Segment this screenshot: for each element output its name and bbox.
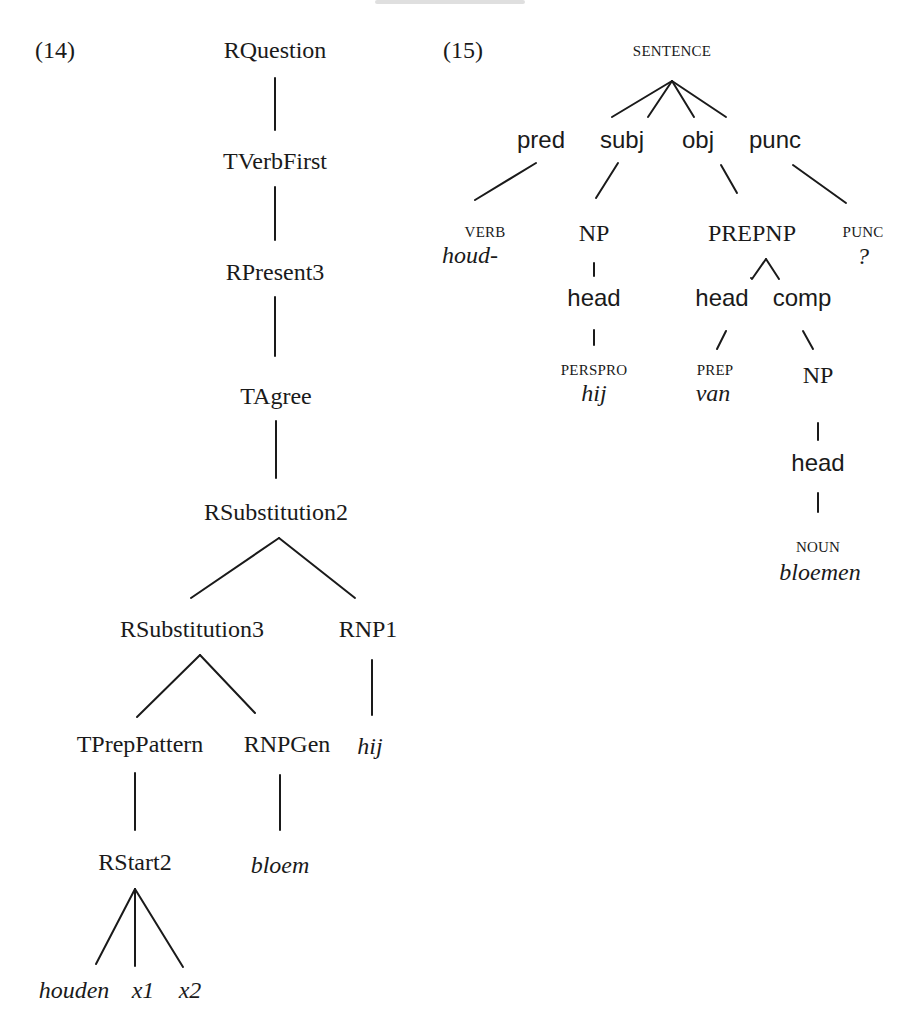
leaf-question-mark: ? — [857, 244, 869, 268]
node-pred: pred — [517, 128, 565, 152]
node-perspro-category: PERSPRO — [561, 363, 627, 378]
tree-figure: (14) RQuestion TVerbFirst RPresent3 TAgr… — [0, 0, 915, 1017]
node-np-subj: NP — [579, 221, 610, 245]
node-rsubstitution2: RSubstitution2 — [204, 500, 348, 524]
example-number-15: (15) — [443, 38, 483, 62]
node-verb-category: VERB — [465, 225, 506, 240]
leaf-houd: houd- — [442, 243, 498, 267]
node-tagree: TAgree — [240, 384, 311, 408]
node-head-subj: head — [567, 286, 620, 310]
node-head-prepnp: head — [695, 286, 748, 310]
leaf-houden: houden — [39, 978, 110, 1002]
node-rpresent3: RPresent3 — [226, 260, 325, 284]
node-subj: subj — [600, 128, 644, 152]
leaf-hij-15: hij — [581, 381, 606, 405]
node-prepnp: PREPNP — [708, 221, 796, 245]
leaf-bloemen: bloemen — [779, 560, 860, 584]
node-punc: punc — [749, 128, 801, 152]
node-noun-category: NOUN — [796, 540, 840, 555]
node-prep-category: PREP — [697, 363, 734, 378]
node-tpreppattern: TPrepPattern — [77, 732, 204, 756]
node-obj: obj — [682, 128, 714, 152]
leaf-x1: x1 — [132, 978, 155, 1002]
node-sentence: SENTENCE — [633, 44, 711, 59]
node-rstart2: RStart2 — [98, 850, 171, 874]
node-rnpgen: RNPGen — [244, 732, 331, 756]
leaf-hij: hij — [357, 734, 382, 758]
leaf-van: van — [696, 381, 731, 405]
node-rsubstitution3: RSubstitution3 — [120, 617, 264, 641]
node-head-np-comp: head — [791, 451, 844, 475]
node-comp: comp — [773, 286, 832, 310]
leaf-bloem: bloem — [251, 853, 310, 877]
example-number-14: (14) — [35, 38, 75, 62]
leaf-x2: x2 — [179, 978, 202, 1002]
node-rquestion: RQuestion — [224, 38, 327, 62]
node-rnp1: RNP1 — [339, 617, 398, 641]
node-tverbfirst: TVerbFirst — [223, 149, 327, 173]
node-punc-category: PUNC — [843, 225, 884, 240]
node-np-comp: NP — [803, 363, 834, 387]
